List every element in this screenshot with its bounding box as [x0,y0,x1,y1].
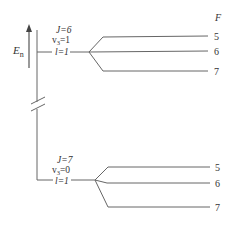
f-column-header: F [214,12,222,23]
upper-j-label: J=6 [56,25,72,35]
lower-f6-label: 6 [215,178,220,189]
upper-f5-label: 5 [214,31,219,42]
energy-axis-label: En [12,44,24,59]
upper-level-group: J=6 v3=1 l=1 5 6 7 [37,25,219,77]
upper-f7-label: 7 [214,66,219,77]
lower-f7-label: 7 [215,202,220,213]
upper-level-f5 [103,36,208,37]
upper-f6-label: 6 [214,46,219,57]
axis-break-mark [31,97,45,104]
axis-break-mark [31,104,45,111]
energy-level-diagram: En F J=6 v3=1 l=1 5 6 7 J=7 v3=0 l=1 [0,0,232,227]
upper-level-f6 [89,51,208,52]
upper-l-label: l=1 [55,47,69,57]
upper-v-label: v3=1 [52,35,70,46]
lower-v-label: v3=0 [52,165,70,176]
lower-f5-label: 5 [215,162,220,173]
lower-j-label: J=7 [57,155,74,165]
lower-level-group: J=7 v3=0 l=1 5 6 7 [37,155,220,213]
energy-arrow-icon [26,24,32,68]
lower-l-label: l=1 [55,176,69,186]
